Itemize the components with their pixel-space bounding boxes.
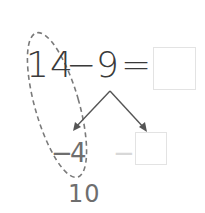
minus-operator: −: [66, 47, 96, 83]
answer-box[interactable]: [153, 47, 196, 90]
right-part-box[interactable]: [135, 132, 167, 165]
right-minus-operator: −: [113, 140, 135, 166]
diagram-lines: [0, 0, 205, 213]
equals-sign: =: [121, 47, 151, 83]
intermediate-result: 10: [68, 182, 101, 206]
left-part-value: 4: [70, 140, 87, 166]
split-arrows: [75, 91, 145, 129]
subtrahend: 9: [96, 47, 119, 83]
